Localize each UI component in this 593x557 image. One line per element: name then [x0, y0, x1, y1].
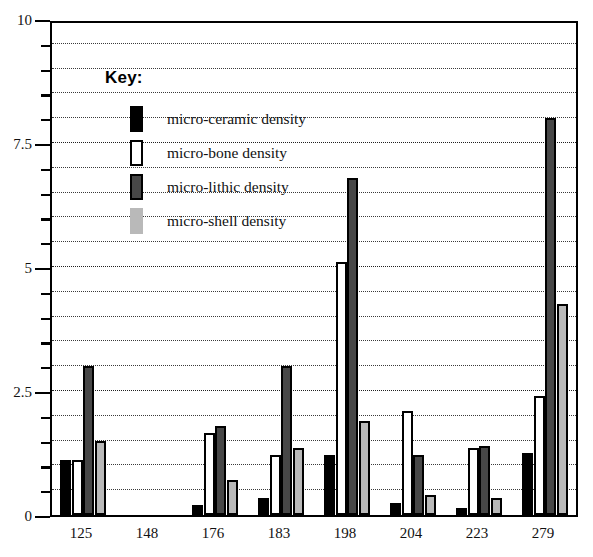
- bar-bone-204: [402, 411, 413, 515]
- tick-mark: [41, 70, 50, 72]
- bar-shell-279: [557, 304, 568, 515]
- bar-lithic-183: [281, 366, 292, 515]
- bar-ceramic-198: [324, 455, 335, 515]
- tick-mark: [41, 45, 50, 47]
- bar-ceramic-183: [258, 498, 269, 515]
- legend-swatch-shell: [130, 208, 143, 234]
- y-axis: 02.557.510: [0, 0, 50, 557]
- y-axis-tick-label: 5: [25, 258, 33, 278]
- legend-swatch-ceramic: [130, 106, 143, 132]
- bar-lithic-125: [83, 366, 94, 515]
- legend-swatch-bone: [130, 140, 143, 166]
- legend-label-ceramic: micro-ceramic density: [167, 110, 306, 128]
- tick-mark: [41, 293, 50, 295]
- bar-shell-198: [359, 421, 370, 515]
- tick-mark: [41, 342, 50, 344]
- tick-mark: [41, 417, 50, 419]
- bar-chart: 02.557.510 125148176183198204223279 Key:…: [0, 0, 593, 557]
- tick-mark: [41, 491, 50, 493]
- tick-mark: [35, 20, 50, 22]
- bar-ceramic-204: [390, 503, 401, 515]
- tick-mark: [41, 119, 50, 121]
- bar-bone-183: [270, 455, 281, 515]
- legend-title: Key:: [105, 68, 333, 88]
- tick-mark: [41, 243, 50, 245]
- bar-lithic-279: [545, 118, 556, 515]
- tick-mark: [35, 392, 50, 394]
- tick-mark: [41, 194, 50, 196]
- x-axis-tick-label: 223: [466, 525, 489, 542]
- x-axis-tick-label: 176: [202, 525, 225, 542]
- bar-lithic-223: [479, 446, 490, 515]
- legend-item-lithic: micro-lithic density: [103, 170, 333, 204]
- x-axis-tick-label: 148: [136, 525, 159, 542]
- y-axis-tick-label: 0: [25, 506, 33, 526]
- tick-mark: [35, 268, 50, 270]
- bar-shell-176: [227, 480, 238, 515]
- bar-lithic-198: [347, 178, 358, 515]
- bar-lithic-204: [413, 455, 424, 515]
- tick-mark: [41, 218, 50, 220]
- bar-bone-223: [468, 448, 479, 515]
- tick-mark: [41, 94, 50, 96]
- tick-mark: [41, 367, 50, 369]
- bar-ceramic-176: [192, 505, 203, 515]
- bar-shell-183: [293, 448, 304, 515]
- x-axis-tick-label: 204: [400, 525, 423, 542]
- tick-mark: [41, 442, 50, 444]
- bar-shell-223: [491, 498, 502, 515]
- tick-mark: [41, 466, 50, 468]
- x-axis-tick-label: 125: [70, 525, 93, 542]
- legend-label-shell: micro-shell density: [167, 212, 286, 230]
- bar-ceramic-279: [522, 453, 533, 515]
- tick-mark: [35, 516, 50, 518]
- legend: Key: micro-ceramic densitymicro-bone den…: [103, 68, 333, 238]
- y-axis-tick-label: 10: [17, 10, 32, 30]
- x-axis-tick-label: 198: [334, 525, 357, 542]
- legend-item-bone: micro-bone density: [103, 136, 333, 170]
- bar-bone-176: [204, 433, 215, 515]
- tick-mark: [41, 318, 50, 320]
- bar-ceramic-223: [456, 508, 467, 515]
- bar-ceramic-125: [60, 460, 71, 515]
- y-axis-tick-label: 7.5: [13, 134, 32, 154]
- x-axis-tick-label: 183: [268, 525, 291, 542]
- x-axis: 125148176183198204223279: [50, 519, 578, 549]
- bar-shell-125: [95, 441, 106, 515]
- bar-shell-204: [425, 495, 436, 515]
- bar-bone-198: [336, 262, 347, 515]
- legend-swatch-lithic: [130, 174, 143, 200]
- bar-bone-279: [534, 396, 545, 515]
- legend-label-bone: micro-bone density: [167, 144, 287, 162]
- legend-item-ceramic: micro-ceramic density: [103, 102, 333, 136]
- legend-rows: micro-ceramic densitymicro-bone densitym…: [103, 102, 333, 238]
- tick-mark: [41, 169, 50, 171]
- tick-mark: [35, 144, 50, 146]
- legend-item-shell: micro-shell density: [103, 204, 333, 238]
- bar-bone-125: [72, 460, 83, 515]
- y-axis-tick-label: 2.5: [13, 382, 32, 402]
- legend-label-lithic: micro-lithic density: [167, 178, 289, 196]
- x-axis-tick-label: 279: [532, 525, 555, 542]
- bar-lithic-176: [215, 426, 226, 515]
